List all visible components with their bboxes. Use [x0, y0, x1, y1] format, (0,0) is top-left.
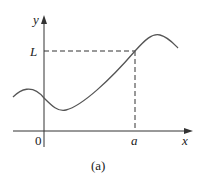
a-label: a — [131, 133, 138, 148]
function-curve — [13, 35, 178, 111]
x-axis-label: x — [181, 133, 188, 148]
origin-label: 0 — [35, 133, 42, 148]
y-axis-label: y — [31, 12, 39, 27]
L-label: L — [29, 44, 37, 59]
y-axis-arrow-icon — [41, 15, 47, 24]
figure-caption: (a) — [91, 158, 105, 173]
limit-diagram: y L 0 a x (a) — [0, 0, 201, 179]
